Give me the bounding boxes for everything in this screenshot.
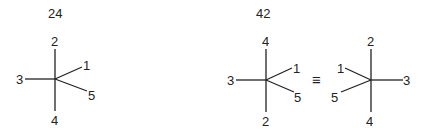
substituent-left: 3 bbox=[227, 73, 234, 88]
substituent-upper-right: 1 bbox=[83, 58, 90, 73]
substituent-right: 3 bbox=[403, 73, 410, 88]
substituent-upper-left: 1 bbox=[337, 61, 344, 76]
substituent-bottom: 4 bbox=[366, 114, 373, 129]
substituent-top: 2 bbox=[51, 34, 58, 49]
substituent-upper-right: 1 bbox=[293, 61, 300, 76]
substituent-lower-left: 5 bbox=[331, 90, 338, 105]
projection-24: 24 2 4 3 1 5 bbox=[16, 6, 95, 128]
stereo-diagram-canvas: 24 2 4 3 1 5 42 4 2 3 1 5 ≡ 2 4 3 1 5 bbox=[0, 0, 425, 137]
projection-equivalent: 2 4 3 1 5 bbox=[331, 34, 410, 129]
diagram-label: 42 bbox=[256, 6, 270, 21]
equivalence-symbol: ≡ bbox=[312, 71, 321, 88]
substituent-lower-right: 5 bbox=[88, 88, 95, 103]
substituent-bottom: 4 bbox=[51, 113, 58, 128]
substituent-top: 4 bbox=[262, 34, 269, 49]
substituent-bottom: 2 bbox=[262, 114, 269, 129]
projection-42: 42 4 2 3 1 5 bbox=[227, 6, 301, 129]
substituent-lower-right: 5 bbox=[294, 90, 301, 105]
diagram-label: 24 bbox=[48, 6, 62, 21]
substituent-top: 2 bbox=[367, 34, 374, 49]
substituent-left: 3 bbox=[16, 72, 23, 87]
